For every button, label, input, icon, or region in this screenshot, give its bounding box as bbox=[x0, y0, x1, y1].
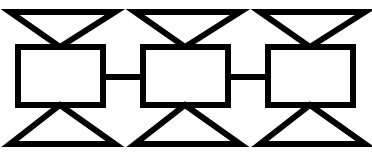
unit-3-rectangle[interactable] bbox=[268, 47, 353, 105]
bowtie-chain-diagram: Chain of three bowtie-boxed nodes Three … bbox=[0, 0, 372, 156]
unit-1-rectangle[interactable] bbox=[18, 47, 103, 105]
unit-2-rectangle[interactable] bbox=[143, 47, 228, 105]
